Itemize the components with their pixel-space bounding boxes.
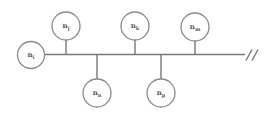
node-label-subscript: n [98,92,102,98]
node-label-n_p: np [147,86,175,100]
node-label-n_k: nk [121,19,149,33]
node-label-subscript: j [68,25,70,31]
node-label-n_i: ni [17,48,45,62]
node-label-n_m: nm [181,20,209,34]
node-label-subscript: m [195,26,200,32]
node-label-subscript: k [136,25,139,31]
node-label-subscript: p [162,92,166,98]
edges [45,40,258,79]
bus-break-mark [246,50,258,61]
node-label-subscript: i [33,54,35,60]
node-label-n_j: nj [52,19,80,33]
node-label-n_n: nn [83,86,111,100]
